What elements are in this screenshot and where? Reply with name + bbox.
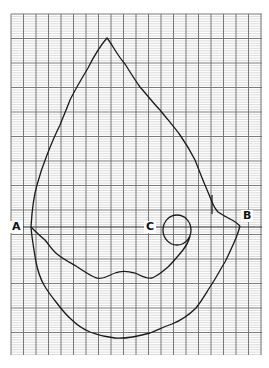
point-label-b: B: [241, 210, 253, 222]
outer-outline-lower: [31, 226, 240, 338]
graph-paper-figure: [0, 0, 269, 368]
point-label-c: C: [144, 221, 156, 233]
loop-at-c: [163, 215, 191, 245]
graph-paper-grid: [11, 14, 262, 355]
outer-outline-upper: [31, 38, 240, 227]
point-label-a: A: [10, 221, 23, 233]
